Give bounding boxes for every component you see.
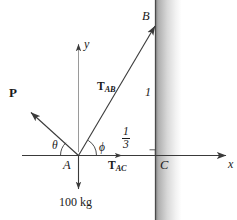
- phi-angle-arc: [88, 140, 96, 155]
- fraction-numerator: 1: [122, 126, 130, 138]
- one-third-fraction: 1 3: [122, 126, 130, 150]
- tension-ab-vector: [79, 26, 156, 156]
- weight-label: 100 kg: [59, 196, 92, 208]
- x-axis-label: x: [228, 158, 233, 170]
- wall-surface: [156, 0, 182, 220]
- y-axis-label: y: [84, 38, 89, 50]
- theta-angle-label: θ: [52, 140, 58, 152]
- diagram-canvas: [0, 0, 237, 220]
- tension-ac-subscript: AC: [116, 164, 127, 173]
- point-c-label: C: [160, 159, 168, 172]
- horizontal-dimension-label: 1 3: [122, 126, 130, 150]
- force-p-label: P: [9, 86, 17, 99]
- tension-ac-symbol: T: [108, 159, 116, 171]
- tension-ab-symbol: T: [97, 80, 105, 92]
- tension-ac-label: TAC: [108, 160, 126, 173]
- fraction-denominator: 3: [122, 139, 130, 151]
- point-b-label: B: [142, 10, 150, 23]
- theta-angle-arc: [61, 143, 66, 156]
- vertical-dimension-label: 1: [145, 86, 151, 98]
- tension-ab-subscript: AB: [105, 85, 116, 94]
- right-angle-mark: [150, 150, 156, 156]
- phi-angle-label: ϕ: [99, 142, 105, 154]
- free-body-diagram-figure: P y x B A C TAB TAC θ ϕ 1 1 3 100 kg: [0, 0, 237, 220]
- tension-ab-label: TAB: [97, 81, 115, 94]
- point-a-label: A: [63, 159, 71, 172]
